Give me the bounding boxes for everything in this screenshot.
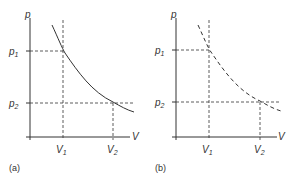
v1-label: V1 (56, 144, 67, 156)
x-axis-label: V (132, 131, 140, 142)
caption-b: (b) (155, 163, 166, 173)
panel-b: p V p1 p2 V1 V2 (b) (154, 9, 286, 173)
y-axis-label: p (170, 9, 177, 20)
v2-label: V2 (107, 144, 118, 156)
p1-label: p1 (154, 45, 165, 57)
isotherm-curve (52, 25, 134, 112)
p2-label: p2 (154, 97, 165, 109)
pv-diagrams: p V p1 p2 V1 V2 (a) p V p1 p2 V1 V2 (b) (0, 0, 292, 184)
v1-label: V1 (202, 144, 213, 156)
v2-label: V2 (254, 144, 265, 156)
isotherm-curve-dashed (198, 25, 281, 111)
p1-label: p1 (8, 46, 19, 58)
panel-a: p V p1 p2 V1 V2 (a) (8, 9, 140, 173)
y-axis-label: p (24, 9, 31, 20)
x-axis-label: V (278, 131, 286, 142)
caption-a: (a) (9, 163, 20, 173)
p2-label: p2 (8, 98, 19, 110)
